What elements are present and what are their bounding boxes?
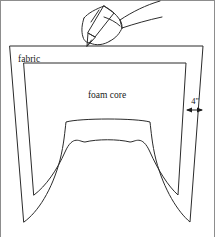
foam-core-outline-group [24, 63, 186, 195]
fabric-outline-group [10, 46, 203, 222]
figure-container: fabric foam core 4" [0, 0, 215, 237]
knuckle-line-icon [90, 41, 110, 45]
allowance-label: 4" [191, 96, 199, 106]
wrist-bottom-line-icon [122, 17, 162, 28]
allowance-dimension-group [186, 107, 203, 112]
fabric-label: fabric [18, 54, 40, 64]
fabric-outline [10, 46, 203, 222]
dimension-arrowhead-left-icon [186, 107, 192, 112]
dimension-arrowhead-right-icon [197, 107, 203, 112]
middle-finger-icon [110, 28, 122, 41]
foam-core-outline [24, 63, 186, 195]
foam-core-label: foam core [88, 90, 126, 100]
finger-crease-icon [104, 17, 120, 26]
thumb-outline-icon [82, 18, 90, 43]
diagram-canvas: fabric foam core 4" [0, 0, 215, 237]
wrist-top-line-icon [120, 1, 160, 20]
hand-with-pencil-group [82, 1, 162, 46]
